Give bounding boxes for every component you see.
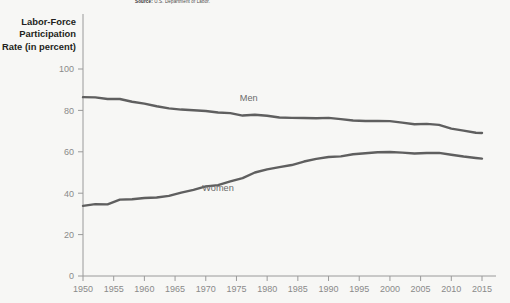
x-tick-label: 1995 bbox=[349, 284, 369, 294]
x-axis: 1950195519601965197019751980198519901995… bbox=[73, 276, 496, 294]
figure-canvas: Source: U.S. Department of Labor. Labor-… bbox=[0, 0, 510, 303]
series-group bbox=[83, 97, 482, 206]
x-tick-label: 1970 bbox=[196, 284, 216, 294]
x-tick-label: 1990 bbox=[319, 284, 339, 294]
x-tick-label: 1975 bbox=[226, 284, 246, 294]
y-tick-label: 100 bbox=[59, 64, 74, 74]
y-tick-label: 80 bbox=[64, 106, 74, 116]
series-label-men: Men bbox=[240, 93, 258, 103]
line-chart: 020406080100 195019551960196519701975198… bbox=[0, 0, 510, 303]
x-tick-label: 1980 bbox=[257, 284, 277, 294]
y-tick-label: 60 bbox=[64, 147, 74, 157]
annotation-group: MenWomen bbox=[202, 93, 257, 193]
x-tick-label: 1955 bbox=[104, 284, 124, 294]
x-tick-label: 2005 bbox=[411, 284, 431, 294]
y-tick-label: 0 bbox=[69, 271, 74, 281]
x-tick-label: 1950 bbox=[73, 284, 93, 294]
y-axis: 020406080100 bbox=[59, 14, 83, 281]
x-tick-label: 2015 bbox=[472, 284, 492, 294]
x-tick-label: 2010 bbox=[441, 284, 461, 294]
y-tick-label: 40 bbox=[64, 189, 74, 199]
series-label-women: Women bbox=[202, 183, 234, 193]
y-tick-label: 20 bbox=[64, 230, 74, 240]
series-line-women bbox=[83, 152, 482, 206]
x-tick-label: 1985 bbox=[288, 284, 308, 294]
x-tick-label: 1960 bbox=[134, 284, 154, 294]
series-line-men bbox=[83, 97, 482, 133]
x-tick-label: 2000 bbox=[380, 284, 400, 294]
x-tick-group: 1950195519601965197019751980198519901995… bbox=[73, 276, 492, 294]
x-tick-label: 1965 bbox=[165, 284, 185, 294]
y-tick-group: 020406080100 bbox=[59, 64, 83, 281]
